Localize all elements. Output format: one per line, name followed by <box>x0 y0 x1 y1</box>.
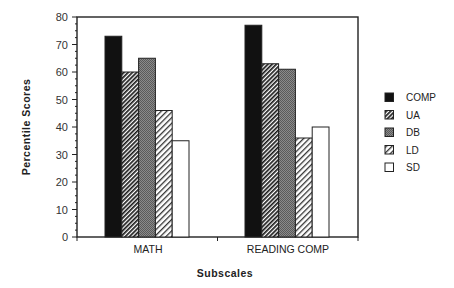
legend-swatch <box>385 146 394 155</box>
legend-item-sd: SD <box>385 162 420 173</box>
bar-comp <box>105 36 122 237</box>
bar-group-reading-comp <box>245 25 329 237</box>
bars <box>105 25 329 237</box>
legend-swatch <box>385 163 394 172</box>
legend-label: SD <box>406 162 420 173</box>
y-tick-label: 40 <box>56 121 68 133</box>
legend-swatch <box>385 93 394 102</box>
legend-label: DB <box>406 127 420 138</box>
y-tick-label: 30 <box>56 149 68 161</box>
bar-sd <box>312 127 329 237</box>
legend-label: COMP <box>406 92 436 103</box>
bar-db <box>139 58 156 237</box>
legend-item-ld: LD <box>385 145 419 156</box>
bar-chart: 01020304050607080 MATHREADING COMP COMPU… <box>0 0 454 288</box>
x-axis-title: Subscales <box>197 267 253 279</box>
legend-item-comp: COMP <box>385 92 436 103</box>
bar-ua <box>122 72 139 237</box>
x-axis: MATHREADING COMP <box>77 237 358 255</box>
y-tick-label: 10 <box>56 204 68 216</box>
legend: COMPUADBLDSD <box>385 92 436 173</box>
y-tick-label: 60 <box>56 66 68 78</box>
y-tick-label: 50 <box>56 94 68 106</box>
bar-ua <box>262 64 279 237</box>
bar-group-math <box>105 36 189 237</box>
legend-label: LD <box>406 145 419 156</box>
y-axis: 01020304050607080 <box>56 11 77 243</box>
legend-swatch <box>385 128 394 137</box>
y-tick-label: 20 <box>56 176 68 188</box>
legend-label: UA <box>406 110 420 121</box>
legend-item-db: DB <box>385 127 420 138</box>
y-tick-label: 80 <box>56 11 68 23</box>
y-axis-title: Percentile Scores <box>20 79 32 176</box>
legend-swatch <box>385 111 394 120</box>
bar-comp <box>245 25 262 237</box>
legend-item-ua: UA <box>385 110 420 121</box>
bar-db <box>279 69 296 237</box>
bar-sd <box>172 141 189 237</box>
x-category-label: READING COMP <box>247 243 329 255</box>
bar-ld <box>295 138 312 237</box>
x-category-label: MATH <box>134 243 163 255</box>
y-tick-label: 0 <box>62 231 68 243</box>
y-tick-label: 70 <box>56 39 68 51</box>
bar-ld <box>155 111 172 238</box>
